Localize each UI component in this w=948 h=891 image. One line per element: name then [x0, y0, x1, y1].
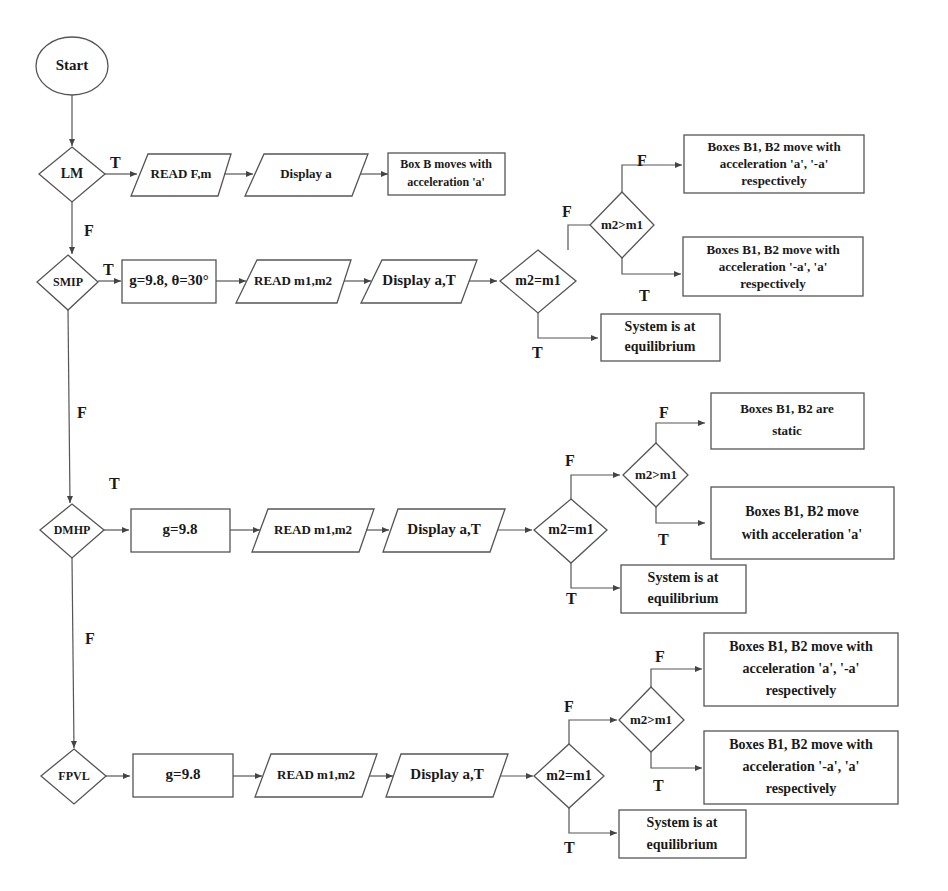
result-line: Box B moves with	[400, 157, 492, 171]
decision-eq-label: m2=m1	[548, 522, 593, 537]
edge-label-true: T	[110, 154, 121, 171]
decision-eq-dmhp: m2=m1	[534, 499, 607, 563]
decision-lm: LM	[39, 147, 105, 202]
connector	[622, 165, 682, 192]
result-line: equilibrium	[625, 339, 696, 354]
result-line: static	[772, 423, 802, 438]
io-display-label: Display a,T	[410, 766, 483, 782]
connector	[622, 258, 681, 274]
result-gt-false-dmhp: Boxes B1, B2 are static	[711, 393, 864, 449]
connector	[538, 313, 598, 338]
connector	[656, 423, 705, 443]
connector	[72, 558, 74, 748]
decision-smip: SMIP	[37, 255, 98, 310]
connector	[569, 720, 617, 744]
decision-smip-label: SMIP	[53, 275, 83, 289]
process-init-dmhp: g=9.8	[131, 509, 230, 552]
edge-label-true: T	[566, 590, 577, 607]
edge-label-false: F	[84, 222, 94, 239]
result-gt-false-smip: Boxes B1, B2 move with acceleration 'a',…	[684, 135, 864, 193]
io-display-at-dmhp: Display a,T	[383, 509, 505, 552]
process-init-smip: g=9.8, θ=30°	[122, 260, 216, 303]
connector	[68, 310, 70, 503]
result-line: Boxes B1, B2 move with	[706, 242, 840, 257]
edge-label-false: F	[659, 404, 669, 421]
edge-label-true: T	[564, 839, 575, 856]
result-line: acceleration 'a', '-a'	[720, 156, 829, 171]
result-line: respectively	[740, 276, 806, 291]
connector	[571, 563, 620, 588]
decision-eq-label: m2=m1	[515, 273, 560, 288]
edge-label-false: F	[564, 698, 574, 715]
result-line: acceleration '-a', 'a'	[742, 759, 859, 774]
io-display-at-fpvl: Display a,T	[386, 754, 508, 797]
result-line: System is at	[625, 319, 696, 334]
edge-label-true: T	[653, 777, 664, 794]
edge-label-true: T	[658, 531, 669, 548]
decision-gt-label: m2>m1	[601, 217, 643, 232]
result-line: respectively	[741, 173, 807, 188]
process-init-fpvl: g=9.8	[133, 754, 233, 797]
edge-label-false: F	[77, 404, 87, 421]
edge-label-true: T	[109, 475, 120, 492]
connector	[651, 752, 702, 768]
edge-label-true: T	[532, 344, 543, 361]
edge-label-false: F	[655, 648, 665, 665]
connector	[569, 808, 617, 833]
process-init-label: g=9.8	[166, 766, 201, 782]
edge-label-false: F	[565, 452, 575, 469]
process-init-label: g=9.8, θ=30°	[129, 272, 209, 288]
result-gt-true-smip: Boxes B1, B2 move with acceleration '-a'…	[683, 237, 863, 296]
result-line: Boxes B1, B2 move with	[729, 639, 873, 654]
edge-label-false: F	[85, 630, 95, 647]
edge-label-true: T	[639, 287, 650, 304]
result-gt-true-dmhp: Boxes B1, B2 move with acceleration 'a'	[711, 487, 894, 559]
io-display-a: Display a	[245, 154, 368, 196]
connector	[656, 507, 705, 523]
io-display-label: Display a,T	[407, 521, 480, 537]
decision-dmhp: DMHP	[40, 504, 104, 558]
result-eq-true-dmhp: System is at equilibrium	[621, 565, 746, 613]
start-label: Start	[56, 57, 89, 73]
result-line: respectively	[766, 683, 837, 698]
connector	[651, 669, 702, 687]
start-node: Start	[36, 37, 108, 95]
result-eq-true-smip: System is at equilibrium	[601, 314, 720, 361]
decision-eq-fpvl: m2=m1	[534, 744, 604, 808]
io-read-label: READ m1,m2	[254, 273, 332, 288]
io-read-label: READ m1,m2	[274, 522, 352, 537]
decision-fpvl: FPVL	[41, 749, 106, 804]
decision-gt-label: m2>m1	[635, 467, 677, 482]
process-init-label: g=9.8	[163, 521, 198, 537]
io-read-m1m2-dmhp: READ m1,m2	[252, 509, 374, 552]
io-read-fm: READ F,m	[131, 154, 231, 196]
decision-gt-label: m2>m1	[630, 712, 672, 727]
result-line: equilibrium	[647, 837, 718, 852]
io-read-m1m2-fpvl: READ m1,m2	[255, 754, 377, 797]
io-display-at-smip: Display a,T	[361, 260, 477, 303]
result-line: acceleration 'a'	[407, 175, 485, 189]
edge-label-false: F	[637, 152, 647, 169]
result-line: respectively	[766, 781, 837, 796]
result-gt-false-fpvl: Boxes B1, B2 move with acceleration 'a',…	[704, 633, 898, 706]
decision-gt-dmhp: m2>m1	[623, 443, 688, 507]
io-read-label: READ m1,m2	[277, 767, 355, 782]
result-line: acceleration 'a', '-a'	[742, 661, 859, 676]
io-display-a-label: Display a	[280, 166, 332, 181]
result-line: Boxes B1, B2 are	[740, 401, 834, 416]
decision-lm-label: LM	[61, 166, 84, 181]
result-line: Boxes B1, B2 move with	[707, 139, 841, 154]
connector	[571, 475, 620, 499]
result-line: equilibrium	[648, 591, 719, 606]
io-display-label: Display a,T	[382, 272, 455, 288]
decision-fpvl-label: FPVL	[58, 769, 89, 783]
decision-eq-label: m2=m1	[546, 768, 591, 783]
edge-label-true: T	[103, 261, 114, 278]
result-line: with acceleration 'a'	[742, 527, 863, 542]
result-eq-true-fpvl: System is at equilibrium	[619, 810, 746, 858]
decision-eq-smip: m2=m1	[500, 250, 576, 313]
edge-label-false: F	[562, 203, 572, 220]
io-read-fm-label: READ F,m	[151, 166, 212, 181]
result-line: acceleration '-a', 'a'	[719, 259, 828, 274]
flowchart: Start LM T READ F,m Display a Box B move…	[0, 0, 948, 891]
